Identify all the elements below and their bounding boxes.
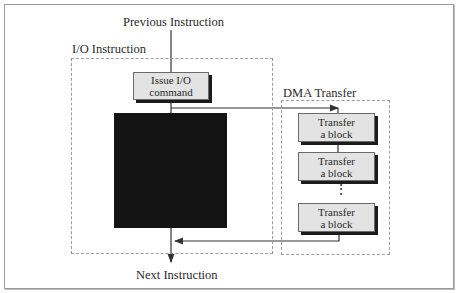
transfer-line1: Transfer (299, 155, 374, 167)
transfer-block-3: Transfer a block (298, 203, 375, 232)
next-instruction-label: Next Instruction (136, 268, 218, 283)
transfer-block-2: Transfer a block (298, 152, 375, 181)
io-instruction-label: I/O Instruction (72, 42, 146, 57)
transfer-line2: a block (299, 128, 374, 140)
redacted-region (114, 113, 227, 228)
dma-transfer-label: DMA Transfer (283, 86, 356, 101)
issue-box-line2: command (134, 86, 208, 98)
previous-instruction-label: Previous Instruction (123, 15, 224, 30)
issue-box-line1: Issue I/O (134, 74, 208, 86)
transfer-block-1: Transfer a block (298, 113, 375, 142)
transfer-line2: a block (299, 167, 374, 179)
issue-io-command-box: Issue I/O command (133, 72, 209, 100)
transfer-line1: Transfer (299, 116, 374, 128)
transfer-line1: Transfer (299, 206, 374, 218)
transfer-line2: a block (299, 218, 374, 230)
ellipsis-icon: ⋮ (334, 181, 348, 199)
